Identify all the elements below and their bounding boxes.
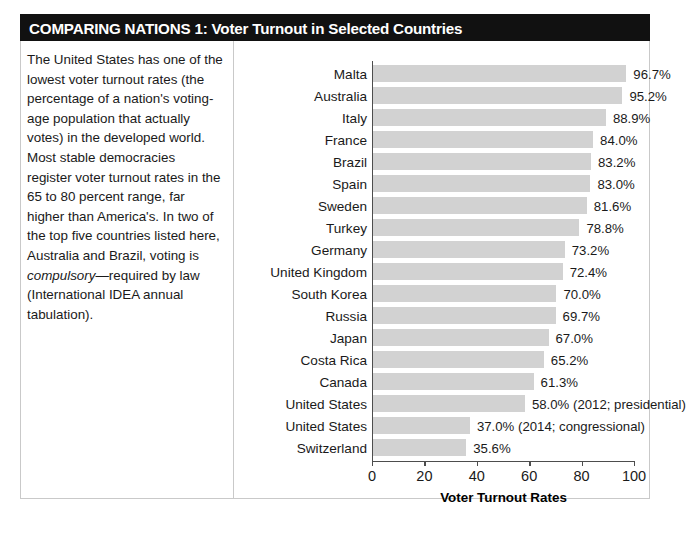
x-axis-tick (477, 461, 478, 466)
content-box: The United States has one of the lowest … (20, 41, 650, 499)
category-label: Australia (314, 89, 367, 104)
category-label: United States (285, 397, 367, 412)
bar-value-label: 61.3% (541, 375, 578, 390)
bar (373, 395, 525, 412)
bar-value-label: 69.7% (563, 309, 600, 324)
bar-value-label: 72.4% (570, 265, 607, 280)
chart-row: Switzerland35.6% (234, 437, 650, 459)
x-axis-tick (424, 461, 425, 466)
bar (373, 65, 626, 82)
bar (373, 329, 549, 346)
x-axis-line (372, 461, 635, 462)
x-axis-tick (529, 461, 530, 466)
bar (373, 87, 622, 104)
bar-value-label: 78.8% (586, 221, 623, 236)
x-axis-tick-label: 40 (469, 468, 485, 484)
category-label: Spain (332, 177, 367, 192)
category-label: United Kingdom (270, 265, 367, 280)
bar (373, 175, 590, 192)
category-label: Switzerland (297, 441, 367, 456)
chart-row: United Kingdom72.4% (234, 261, 650, 283)
category-label: Costa Rica (301, 353, 367, 368)
plot-area: 020406080100Malta96.7%Australia95.2%Ital… (234, 41, 650, 499)
category-label: Italy (342, 111, 367, 126)
bar (373, 439, 466, 456)
chart-row: Canada61.3% (234, 371, 650, 393)
category-label: Russia (325, 309, 367, 324)
bar (373, 417, 470, 434)
bar (373, 263, 563, 280)
x-axis-tick-label: 100 (622, 468, 646, 484)
bar-value-label: 96.7% (633, 67, 670, 82)
chart-row: Russia69.7% (234, 305, 650, 327)
page-title: COMPARING NATIONS 1: Voter Turnout in Se… (29, 19, 462, 36)
bar (373, 131, 593, 148)
description-emphasis: compulsory (27, 268, 95, 283)
category-label: France (325, 133, 367, 148)
chart-row: Malta96.7% (234, 63, 650, 85)
chart-row: United States37.0% (2014; congressional) (234, 415, 650, 437)
chart-row: South Korea70.0% (234, 283, 650, 305)
bar-value-label: 83.2% (598, 155, 635, 170)
bar-value-label: 84.0% (600, 133, 637, 148)
bar-value-label: 37.0% (2014; congressional) (477, 419, 645, 434)
x-axis-tick-label: 0 (368, 468, 376, 484)
bar-value-label: 88.9% (613, 111, 650, 126)
bar (373, 153, 591, 170)
chart-row: United States58.0% (2012; presidential) (234, 393, 650, 415)
chart-row: France84.0% (234, 129, 650, 151)
chart-row: Spain83.0% (234, 173, 650, 195)
bar-value-label: 67.0% (556, 331, 593, 346)
category-label: Japan (330, 331, 367, 346)
category-label: Turkey (326, 221, 367, 236)
bar-value-label: 65.2% (551, 353, 588, 368)
chart-row: Brazil83.2% (234, 151, 650, 173)
x-axis-tick-label: 80 (574, 468, 590, 484)
chart-row: Turkey78.8% (234, 217, 650, 239)
bar-value-label: 35.6% (473, 441, 510, 456)
bar-value-label: 81.6% (594, 199, 631, 214)
chart-row: Japan67.0% (234, 327, 650, 349)
bar-value-label: 58.0% (2012; presidential) (532, 397, 686, 412)
chart-row: Costa Rica65.2% (234, 349, 650, 371)
chart-row: Sweden81.6% (234, 195, 650, 217)
chart-row: Italy88.9% (234, 107, 650, 129)
bar-chart: 020406080100Malta96.7%Australia95.2%Ital… (234, 41, 650, 499)
x-axis-title: Voter Turnout Rates (372, 490, 635, 505)
bar (373, 307, 556, 324)
bar (373, 351, 544, 368)
x-axis-tick (582, 461, 583, 466)
bar-value-label: 95.2% (629, 89, 666, 104)
bar (373, 197, 587, 214)
description-part-1: The United States has one of the lowest … (27, 52, 223, 263)
bar-value-label: 70.0% (563, 287, 600, 302)
category-label: Sweden (318, 199, 367, 214)
bar (373, 241, 565, 258)
chart-row: Australia95.2% (234, 85, 650, 107)
description-paragraph: The United States has one of the lowest … (27, 50, 223, 324)
category-label: Brazil (333, 155, 367, 170)
category-label: United States (285, 419, 367, 434)
category-label: Malta (334, 67, 367, 82)
title-bar: COMPARING NATIONS 1: Voter Turnout in Se… (20, 14, 650, 41)
category-label: Canada (319, 375, 367, 390)
x-axis-tick (634, 461, 635, 466)
x-axis-tick-label: 20 (416, 468, 432, 484)
category-label: South Korea (291, 287, 367, 302)
bar (373, 219, 579, 236)
bar (373, 373, 534, 390)
category-label: Germany (311, 243, 367, 258)
bar (373, 285, 556, 302)
bar (373, 109, 606, 126)
chart-row: Germany73.2% (234, 239, 650, 261)
bar-value-label: 73.2% (572, 243, 609, 258)
x-axis-tick-label: 60 (521, 468, 537, 484)
x-axis-tick (372, 461, 373, 466)
bar-value-label: 83.0% (597, 177, 634, 192)
